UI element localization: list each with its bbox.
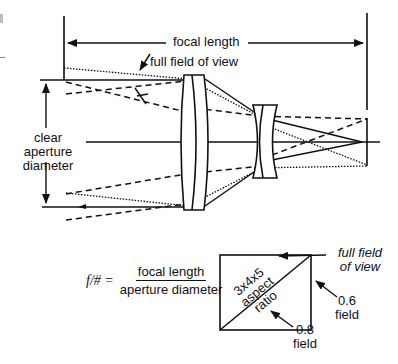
f-number-formula: f/# = focal length aperture diameter: [86, 264, 224, 297]
field-08-text: field: [290, 337, 320, 351]
field-08-value: 0.8: [290, 323, 320, 337]
clear-aperture-line2: aperture: [20, 145, 76, 159]
clear-aperture-line1: clear: [20, 131, 76, 145]
box-full-fov-line2: of view: [327, 260, 393, 274]
field-06-text: field: [332, 308, 362, 322]
box-full-fov-label: full field of view: [327, 246, 393, 274]
f-number-symbol: f/# =: [86, 273, 114, 289]
full-field-pointer-arrow: [140, 54, 150, 70]
formula-denominator: aperture diameter: [118, 281, 225, 297]
field-06-label: 0.6 field: [332, 294, 362, 322]
focal-length-label: focal length: [173, 35, 240, 49]
full-field-of-view-label: full field of view: [150, 55, 238, 69]
converging-lens: [181, 75, 208, 210]
formula-numerator: focal length: [136, 264, 207, 281]
field-08-label: 0.8 field: [290, 323, 320, 351]
full-fov-pointer-arrow: [279, 255, 326, 256]
field-06-value: 0.6: [332, 294, 362, 308]
box-full-fov-line1: full field: [327, 246, 393, 260]
clear-aperture-line3: diameter: [20, 159, 76, 173]
clear-aperture-label: clear aperture diameter: [20, 131, 76, 173]
